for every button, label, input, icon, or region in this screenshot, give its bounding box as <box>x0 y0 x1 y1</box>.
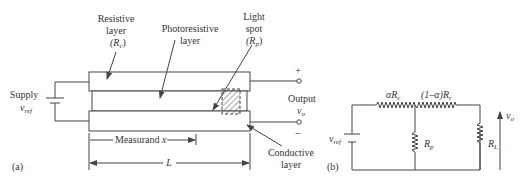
one-minus-alpha-rc-resistor-icon <box>415 102 456 108</box>
resistive-symbol: (Rc) <box>110 37 126 50</box>
vref-battery-icon <box>344 134 360 142</box>
left-top-wire <box>352 105 376 134</box>
light-spot <box>222 89 240 114</box>
bottom-wire <box>352 130 480 170</box>
output-label: Output <box>288 93 316 104</box>
negative-terminal-icon <box>297 120 301 124</box>
rp-resistor-icon <box>412 132 418 152</box>
conductive-label-line1: Conductive <box>268 147 315 158</box>
vref-label: vref <box>329 133 342 146</box>
length-label: L <box>165 157 172 168</box>
supply-label: Supply <box>10 89 38 100</box>
output-symbol: vo <box>297 105 305 118</box>
photoresistive-label-line2: layer <box>180 35 201 46</box>
positive-terminal-icon <box>297 79 301 83</box>
rl-label: RL <box>487 138 498 151</box>
photoresistive-label-line1: Photoresistive <box>162 23 219 34</box>
alpha-rc-label: αRc <box>386 89 401 102</box>
supply-symbol: vref <box>20 102 33 115</box>
panel-label-a: (a) <box>12 161 23 173</box>
right-top-wire <box>456 105 480 123</box>
light-spot-symbol: (Rp) <box>246 35 262 48</box>
diagram-a-potentiometer-sensor: Resistive layer (Rc) Photoresistive laye… <box>10 11 316 173</box>
minus-sign: – <box>295 127 302 138</box>
light-spot-label-line2: spot <box>246 23 263 34</box>
plus-sign: + <box>295 65 301 76</box>
panel-label-b: (b) <box>327 161 339 173</box>
conductive-leader-arrow-icon <box>247 125 282 146</box>
rp-label: Rp <box>423 138 434 151</box>
resistive-label-line2: layer <box>106 25 127 36</box>
vo-label: vo <box>506 110 514 123</box>
measurand-label: Measurand x <box>115 134 167 145</box>
one-minus-alpha-rc-label: (1–α)Rc <box>421 89 453 102</box>
conductive-label-line2: layer <box>281 159 302 170</box>
figure-canvas: Resistive layer (Rc) Photoresistive laye… <box>0 0 525 183</box>
diagram-b-equivalent-circuit: αRc (1–α)Rc Rp RL vref vo (b) <box>327 89 514 173</box>
light-spot-label-line1: Light <box>243 11 265 22</box>
resistive-label-line1: Resistive <box>98 13 135 24</box>
alpha-rc-resistor-icon <box>376 102 415 108</box>
supply-battery-icon <box>46 82 89 121</box>
